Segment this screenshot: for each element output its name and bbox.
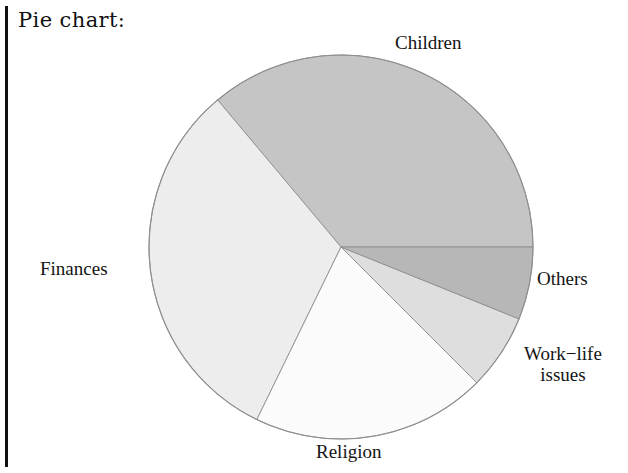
slice-label-work-life-line1: Work−life xyxy=(524,343,602,364)
pie-chart-canvas xyxy=(0,0,628,473)
pie-slice-group xyxy=(149,55,533,439)
slice-label-work-life-issues: Work−life issues xyxy=(503,343,623,386)
slice-label-children: Children xyxy=(395,32,462,53)
slice-label-religion: Religion xyxy=(316,441,381,462)
slice-label-finances: Finances xyxy=(40,258,108,279)
slice-label-others: Others xyxy=(537,268,588,289)
slice-label-work-life-line2: issues xyxy=(540,364,585,385)
pie-chart-figure: Pie chart: Children Finances Others Work… xyxy=(0,0,628,473)
